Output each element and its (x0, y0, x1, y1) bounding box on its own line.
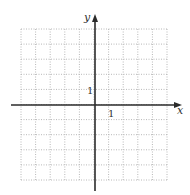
y-axis-arrow-icon (92, 14, 98, 22)
x-tick-label: 1 (108, 108, 114, 119)
y-tick-label: 1 (87, 85, 93, 96)
coordinate-plane: y x 1 1 (0, 0, 190, 195)
y-axis-label: y (83, 11, 91, 24)
x-axis-label: x (177, 104, 184, 117)
